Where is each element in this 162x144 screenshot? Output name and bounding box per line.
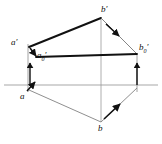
segment-a-lower-b-lower	[29, 90, 101, 122]
segment-a-prime-zero-b-prime-zero	[36, 54, 137, 57]
projection-drawing	[0, 0, 162, 144]
label-b-prime: b′	[101, 5, 107, 14]
label-b-lower: b	[98, 124, 103, 133]
label-a-prime-zero: a0′	[37, 51, 46, 62]
label-a-prime: a′	[11, 38, 17, 47]
label-a-lower: a	[20, 92, 25, 101]
label-b-prime-zero-prime: ′	[147, 42, 149, 52]
segment-a-prime-b-prime	[29, 18, 101, 47]
arrow-a-prime-to-a-prime-zero	[30, 48, 36, 56]
geometry-figure: a′ a0′ b′ b0′ a b	[0, 0, 162, 144]
label-a-prime-zero-prime: ′	[45, 50, 47, 60]
arrow-b-prime-to-b-prime-zero	[106, 24, 119, 36]
arrow-b-lower-up-right	[104, 104, 120, 119]
label-b-prime-zero: b0′	[139, 43, 148, 54]
